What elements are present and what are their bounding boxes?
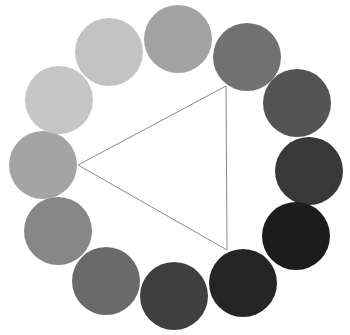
color-circle-upper-right	[213, 23, 281, 91]
color-circle-top	[144, 5, 212, 73]
color-circle-bottom-right	[209, 249, 277, 317]
color-circle-right-upper	[263, 69, 331, 137]
color-circle-upper-left	[25, 66, 93, 134]
color-circle-bottom	[140, 262, 208, 330]
color-circle-lower-right	[262, 202, 330, 270]
color-circle-left-lower	[24, 197, 92, 265]
color-wheel-canvas	[0, 0, 350, 335]
triad-triangle	[78, 86, 227, 250]
color-circle-top-left	[75, 18, 143, 86]
color-circle-lower-left	[72, 247, 140, 315]
color-circle-right	[275, 137, 343, 205]
color-circle-left	[9, 131, 77, 199]
color-circles-group	[9, 5, 343, 330]
color-wheel-diagram	[0, 0, 350, 335]
